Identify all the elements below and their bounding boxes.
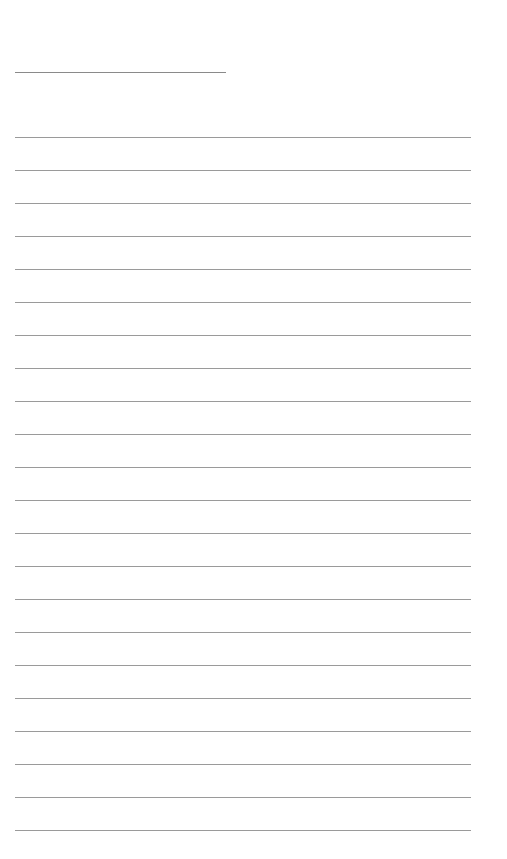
ruled-line bbox=[15, 236, 471, 269]
title-write-line bbox=[15, 72, 226, 73]
ruled-lines bbox=[15, 137, 471, 859]
ruled-line bbox=[15, 467, 471, 500]
ruled-line bbox=[15, 830, 471, 859]
ruled-line bbox=[15, 500, 471, 533]
ruled-line bbox=[15, 665, 471, 698]
ruled-line bbox=[15, 170, 471, 203]
ruled-line bbox=[15, 203, 471, 236]
ruled-line bbox=[15, 797, 471, 830]
ruled-line bbox=[15, 269, 471, 302]
ruled-line bbox=[15, 599, 471, 632]
ruled-line bbox=[15, 434, 471, 467]
ruled-line bbox=[15, 137, 471, 170]
ruled-line bbox=[15, 632, 471, 665]
ruled-line bbox=[15, 698, 471, 731]
ruled-line bbox=[15, 764, 471, 797]
ruled-line bbox=[15, 302, 471, 335]
ruled-line bbox=[15, 566, 471, 599]
ruled-line bbox=[15, 368, 471, 401]
ruled-line bbox=[15, 533, 471, 566]
ruled-line bbox=[15, 731, 471, 764]
ruled-line bbox=[15, 335, 471, 368]
ruled-line bbox=[15, 401, 471, 434]
lined-page bbox=[0, 0, 507, 859]
